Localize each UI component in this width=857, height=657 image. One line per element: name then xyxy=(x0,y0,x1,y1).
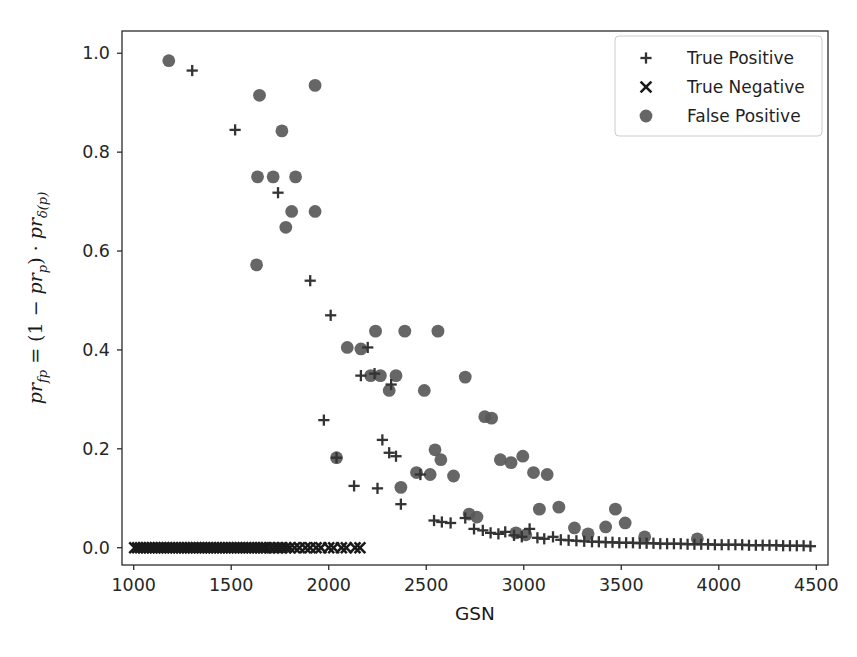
data-point-false-positive xyxy=(505,456,518,469)
data-point-false-positive xyxy=(276,124,289,137)
data-point-false-positive xyxy=(253,89,266,102)
ylabel-var3: pr xyxy=(24,216,46,239)
data-point-false-positive xyxy=(289,170,302,183)
data-point-false-positive xyxy=(459,371,472,384)
data-point-false-positive xyxy=(279,221,292,234)
data-point-false-positive xyxy=(434,453,447,466)
x-tick-label: 1500 xyxy=(209,575,254,595)
data-point-false-positive xyxy=(285,205,298,218)
x-tick-label: 3500 xyxy=(599,575,644,595)
y-tick-label: 0.6 xyxy=(82,241,110,261)
data-point-false-positive xyxy=(162,54,175,67)
data-point-false-positive xyxy=(568,522,581,535)
ylabel-var1: pr xyxy=(24,381,46,404)
x-tick-label: 4000 xyxy=(697,575,742,595)
data-point-false-positive xyxy=(541,468,554,481)
data-point-false-positive xyxy=(394,481,407,494)
legend-label-true-negative: True Negative xyxy=(686,77,805,97)
x-tick-label: 2500 xyxy=(404,575,449,595)
data-point-false-positive xyxy=(374,369,387,382)
data-point-false-positive xyxy=(341,341,354,354)
data-point-false-positive xyxy=(418,384,431,397)
data-point-false-positive xyxy=(355,343,368,356)
data-point-false-positive xyxy=(471,511,484,524)
scatter-plot-figure: 10001500200025003000350040004500 0.00.20… xyxy=(0,0,857,657)
plot-canvas: 10001500200025003000350040004500 0.00.20… xyxy=(0,0,857,657)
data-point-false-positive xyxy=(309,205,322,218)
x-tick-label: 1000 xyxy=(111,575,156,595)
data-point-false-positive xyxy=(267,170,280,183)
data-point-false-positive xyxy=(251,170,264,183)
data-point-false-positive xyxy=(527,466,540,479)
data-point-false-positive xyxy=(485,412,498,425)
y-tick-label: 0.8 xyxy=(82,142,110,162)
ylabel-var2: pr xyxy=(24,271,46,294)
legend-label-false-positive: False Positive xyxy=(687,106,801,126)
x-tick-label: 2000 xyxy=(306,575,351,595)
y-tick-label: 0.0 xyxy=(82,538,110,558)
data-point-false-positive xyxy=(383,384,396,397)
data-point-false-positive xyxy=(533,503,546,516)
ylabel-eq: = (1 − xyxy=(24,294,46,370)
y-tick-label: 0.4 xyxy=(82,340,110,360)
data-point-false-positive xyxy=(494,453,507,466)
data-point-false-positive xyxy=(619,517,632,530)
legend: True PositiveTrue NegativeFalse Positive xyxy=(615,36,822,136)
data-point-false-positive xyxy=(447,470,460,483)
data-point-false-positive xyxy=(432,325,445,338)
series-true-negative xyxy=(129,542,365,553)
legend-label-true-positive: True Positive xyxy=(686,48,794,68)
x-tick-label: 3000 xyxy=(501,575,546,595)
data-point-false-positive xyxy=(640,110,653,123)
ylabel-sub3: δ(p) xyxy=(35,192,50,218)
x-axis-title: GSN xyxy=(455,603,495,624)
ylabel-sub1: fp xyxy=(35,369,50,384)
x-tick-label: 4500 xyxy=(794,575,839,595)
data-point-false-positive xyxy=(552,501,565,514)
data-point-false-positive xyxy=(309,79,322,92)
y-tick-label: 1.0 xyxy=(82,43,110,63)
data-point-false-positive xyxy=(599,521,612,534)
y-tick-label: 0.2 xyxy=(82,439,110,459)
data-point-false-positive xyxy=(398,325,411,338)
data-point-false-positive xyxy=(369,325,382,338)
data-point-false-positive xyxy=(516,450,529,463)
data-point-false-positive xyxy=(609,503,622,516)
ylabel-mid: ) · xyxy=(24,239,46,265)
data-point-false-positive xyxy=(250,258,263,271)
